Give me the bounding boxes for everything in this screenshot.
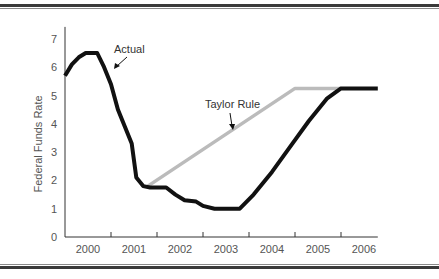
y-tick-label: 4 — [51, 118, 57, 130]
y-tick-label: 1 — [51, 203, 57, 215]
axes: 012345672000200120022003200420052006Fede… — [32, 27, 378, 255]
y-tick-label: 0 — [51, 231, 57, 243]
y-tick-label: 6 — [51, 61, 57, 73]
y-tick-label: 2 — [51, 174, 57, 186]
y-tick-label: 7 — [51, 33, 57, 45]
annotations: ActualTaylor Rule — [114, 43, 260, 130]
series-lines — [65, 53, 378, 209]
actual-annotation-label: Actual — [114, 43, 145, 55]
actual-annotation-arrow — [117, 57, 127, 66]
x-tick-label: 2004 — [260, 243, 284, 255]
x-tick-label: 2001 — [122, 243, 146, 255]
x-tick-label: 2003 — [214, 243, 238, 255]
taylor-rule-annotation-label: Taylor Rule — [205, 98, 260, 110]
y-axis-label: Federal Funds Rate — [32, 95, 44, 192]
x-tick-label: 2000 — [76, 243, 100, 255]
x-tick-label: 2005 — [306, 243, 330, 255]
actual-line — [65, 53, 378, 209]
y-tick-label: 3 — [51, 146, 57, 158]
y-tick-label: 5 — [51, 90, 57, 102]
x-tick-label: 2006 — [352, 243, 376, 255]
x-tick-label: 2002 — [168, 243, 192, 255]
federal-funds-rate-chart: 012345672000200120022003200420052006Fede… — [0, 0, 439, 279]
